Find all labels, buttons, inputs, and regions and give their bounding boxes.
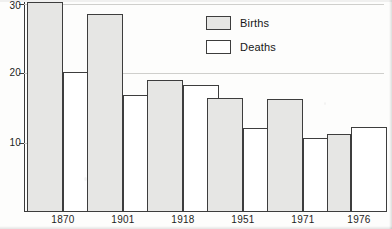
bar-births-1951 <box>207 98 243 212</box>
scan-speckle <box>324 102 326 105</box>
births-swatch-icon <box>206 16 231 30</box>
x-tick-label-1870: 1870 <box>33 214 93 225</box>
chart-legend: Births Deaths <box>206 14 326 62</box>
y-tick-mark-10 <box>19 143 24 144</box>
page-edge-bottom <box>0 226 392 229</box>
plot-area <box>24 2 384 212</box>
chart-page: 30 20 10 18 <box>0 0 392 229</box>
x-tick-label-1901: 1901 <box>93 214 153 225</box>
bar-deaths-1976 <box>351 127 387 212</box>
y-tick-label-30: 30 <box>9 1 21 11</box>
legend-label-deaths: Deaths <box>240 40 276 54</box>
bar-births-1870 <box>27 2 63 212</box>
bar-births-1971 <box>267 99 303 212</box>
gridline-30 <box>24 4 384 5</box>
y-axis-line <box>24 2 25 212</box>
legend-item-births: Births <box>206 14 326 38</box>
y-tick-mark-20 <box>19 73 24 74</box>
y-tick-mark-30 <box>19 4 24 5</box>
bar-births-1918 <box>147 80 183 212</box>
x-tick-label-1971: 1971 <box>273 214 333 225</box>
bar-births-1901 <box>87 14 123 212</box>
bar-births-1976 <box>327 134 351 212</box>
deaths-swatch-icon <box>206 40 231 54</box>
legend-label-births: Births <box>240 16 269 30</box>
x-tick-label-1918: 1918 <box>153 214 213 225</box>
x-tick-label-1951: 1951 <box>213 214 273 225</box>
legend-item-deaths: Deaths <box>206 38 326 62</box>
y-axis: 30 20 10 <box>0 2 21 212</box>
x-tick-label-1976: 1976 <box>329 214 389 225</box>
